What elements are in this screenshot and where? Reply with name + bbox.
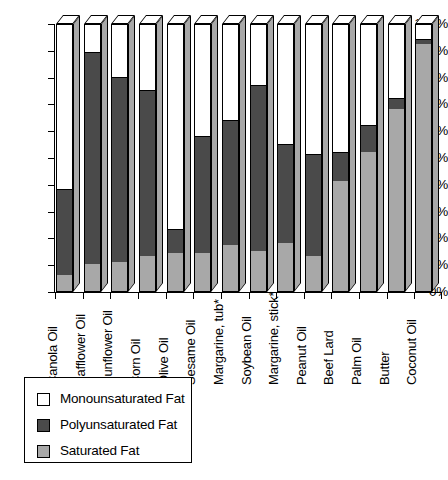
segment-saturated-fat bbox=[251, 251, 266, 291]
y-axis-tick bbox=[48, 158, 55, 159]
legend-item: Monounsaturated Fat bbox=[37, 392, 185, 406]
segment-saturated-fat bbox=[306, 256, 321, 291]
bar-margarine-stick bbox=[277, 24, 294, 292]
segment-polyunsaturated-fat bbox=[85, 52, 100, 264]
x-axis-tick bbox=[221, 292, 222, 299]
bar-sunflower-oil bbox=[111, 24, 128, 292]
bar-side-face bbox=[322, 15, 329, 292]
chart-legend: Monounsaturated FatPolyunsaturated FatSa… bbox=[24, 377, 192, 463]
bar-front-face bbox=[277, 24, 294, 292]
legend-label: Polyunsaturated Fat bbox=[60, 418, 177, 432]
y-axis-tick bbox=[48, 265, 55, 266]
x-axis-tick-label: Margarine, tub* bbox=[212, 299, 225, 385]
segment-polyunsaturated-fat bbox=[57, 189, 72, 275]
y-axis-tick bbox=[48, 212, 55, 213]
y-axis-tick bbox=[48, 131, 55, 132]
x-axis-tick-label: Sunflower Oil bbox=[101, 310, 114, 385]
segment-polyunsaturated-fat bbox=[389, 98, 404, 109]
bar-margarine-tub bbox=[222, 24, 239, 292]
bar-corn-oil bbox=[139, 24, 156, 292]
bar-front-face bbox=[84, 24, 101, 292]
legend-swatch bbox=[37, 445, 50, 458]
bar-side-face bbox=[211, 15, 218, 292]
x-axis-line bbox=[54, 292, 442, 293]
segment-saturated-fat bbox=[168, 253, 183, 291]
bar-peanut-oil bbox=[305, 24, 322, 292]
bar-front-face bbox=[56, 24, 73, 292]
segment-saturated-fat bbox=[278, 243, 293, 291]
bar-front-face bbox=[222, 24, 239, 292]
segment-polyunsaturated-fat bbox=[195, 136, 210, 254]
y-axis-tick bbox=[48, 185, 55, 186]
x-axis-tick bbox=[110, 292, 111, 299]
y-axis-tick bbox=[48, 238, 55, 239]
bar-side-face bbox=[377, 15, 384, 292]
x-axis-tick-label: Safflower Oil bbox=[74, 314, 87, 385]
segment-monounsaturated-fat bbox=[389, 24, 404, 98]
x-axis-tick-label: Peanut Oil bbox=[295, 326, 308, 385]
segment-monounsaturated-fat bbox=[416, 24, 431, 39]
bar-front-face bbox=[250, 24, 267, 292]
bar-side-face bbox=[405, 15, 412, 292]
segment-monounsaturated-fat bbox=[57, 24, 72, 189]
bar-side-face bbox=[101, 15, 108, 292]
segment-monounsaturated-fat bbox=[195, 24, 210, 136]
bar-side-face bbox=[73, 15, 80, 292]
bar-coconut-oil bbox=[415, 24, 432, 292]
x-axis-tick-label: Beef Lard bbox=[322, 330, 335, 385]
segment-saturated-fat bbox=[333, 181, 348, 291]
segment-monounsaturated-fat bbox=[306, 24, 321, 154]
y-axis-tick bbox=[48, 104, 55, 105]
legend-item: Polyunsaturated Fat bbox=[37, 418, 177, 432]
segment-monounsaturated-fat bbox=[361, 24, 376, 125]
legend-swatch bbox=[37, 419, 50, 432]
bar-olive-oil bbox=[167, 24, 184, 292]
x-axis-tick bbox=[331, 292, 332, 299]
segment-saturated-fat bbox=[361, 152, 376, 291]
x-axis-tick-label: Butter bbox=[378, 352, 391, 385]
x-axis-tick-label: Coconut Oil bbox=[405, 319, 418, 385]
x-axis-tick bbox=[441, 292, 442, 299]
segment-polyunsaturated-fat bbox=[251, 85, 266, 251]
bar-front-face bbox=[415, 24, 432, 292]
x-axis-tick bbox=[304, 292, 305, 299]
bar-side-face bbox=[239, 15, 246, 292]
legend-label: Saturated Fat bbox=[60, 444, 139, 458]
y-axis-tick bbox=[48, 78, 55, 79]
x-axis-tick bbox=[55, 292, 56, 299]
segment-polyunsaturated-fat bbox=[223, 120, 238, 246]
x-axis-tick bbox=[414, 292, 415, 299]
x-axis-tick bbox=[249, 292, 250, 299]
segment-saturated-fat bbox=[389, 109, 404, 291]
segment-saturated-fat bbox=[223, 245, 238, 291]
y-axis-tick bbox=[48, 51, 55, 52]
bar-front-face bbox=[167, 24, 184, 292]
segment-polyunsaturated-fat bbox=[168, 229, 183, 253]
segment-polyunsaturated-fat bbox=[306, 154, 321, 256]
legend-item: Saturated Fat bbox=[37, 444, 139, 458]
x-axis-tick bbox=[193, 292, 194, 299]
bar-soybean-oil bbox=[250, 24, 267, 292]
bar-front-face bbox=[360, 24, 377, 292]
bar-beef-lard bbox=[332, 24, 349, 292]
bar-front-face bbox=[111, 24, 128, 292]
segment-monounsaturated-fat bbox=[85, 24, 100, 52]
bar-front-face bbox=[388, 24, 405, 292]
x-axis-tick bbox=[83, 292, 84, 299]
x-axis-tick-label: Sesame Oil bbox=[184, 320, 197, 385]
x-axis-tick bbox=[359, 292, 360, 299]
bar-side-face bbox=[184, 15, 191, 292]
segment-polyunsaturated-fat bbox=[333, 152, 348, 181]
segment-saturated-fat bbox=[416, 44, 431, 291]
segment-polyunsaturated-fat bbox=[140, 90, 155, 256]
segment-monounsaturated-fat bbox=[333, 24, 348, 152]
segment-polyunsaturated-fat bbox=[112, 77, 127, 262]
legend-label: Monounsaturated Fat bbox=[60, 392, 185, 406]
segment-monounsaturated-fat bbox=[251, 24, 266, 85]
segment-saturated-fat bbox=[57, 275, 72, 291]
x-axis-tick-label: Margarine, stick* bbox=[267, 292, 280, 385]
x-axis-tick-label: Palm Oil bbox=[350, 337, 363, 385]
bar-front-face bbox=[194, 24, 211, 292]
x-axis-tick bbox=[138, 292, 139, 299]
segment-saturated-fat bbox=[112, 262, 127, 291]
